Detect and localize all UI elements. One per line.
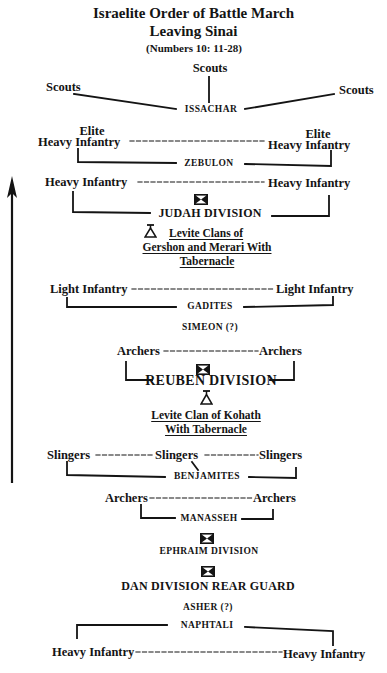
reuben-right-archers: Archers [259, 345, 302, 358]
tribe-benjamites: BENJAMITES [174, 472, 240, 482]
tribe-zebulon: ZEBULON [184, 159, 233, 169]
division-standard-icon [194, 194, 208, 205]
diagram-title: Israelite Order of Battle March [0, 6, 387, 21]
reuben-division: REUBEN DIVISION [145, 374, 277, 388]
gadites-right-infantry: Light Infantry [276, 283, 353, 296]
ephraim-division: EPHRAIM DIVISION [159, 547, 258, 557]
division-standard-icon [201, 566, 215, 577]
scripture-reference: (Numbers 10: 11-28) [146, 43, 242, 54]
tribe-naphtali: NAPHTALI [181, 621, 234, 631]
levites-gershon-line3: Tabernacle [180, 254, 235, 268]
levites-kohath-line1: Levite Clan of Kohath [151, 408, 261, 422]
tribe-asher: ASHER (?) [183, 603, 233, 613]
levites-gershon-line1: Levite Clans of [169, 226, 243, 240]
judah-left-infantry: Heavy Infantry [45, 176, 127, 189]
tabernacle-icon [144, 224, 157, 238]
levites-gershon-line2: Gershon and Merari With [143, 240, 272, 254]
judah-division: JUDAH DIVISION [158, 207, 261, 219]
naphtali-right-infantry: Heavy Infantry [283, 648, 365, 661]
scouts-left: Scouts [46, 81, 81, 94]
scouts-center: Scouts [193, 62, 228, 75]
benjamites-left-slingers: Slingers [47, 449, 90, 462]
judah-right-infantry: Heavy Infantry [268, 177, 350, 190]
zebulon-right-infantry: Heavy Infantry [268, 139, 350, 152]
division-standard-icon [200, 533, 214, 544]
manasseh-right-archers: Archers [253, 492, 296, 505]
benjamites-right-slingers: Slingers [259, 449, 302, 462]
benjamites-center-slingers: Slingers [155, 449, 198, 462]
zebulon-left-infantry: Heavy Infantry [38, 136, 120, 149]
gadites-left-infantry: Light Infantry [50, 283, 127, 296]
scouts-right: Scouts [339, 84, 374, 97]
naphtali-left-infantry: Heavy Infantry [52, 646, 134, 659]
diagram-lines [0, 0, 387, 673]
tribe-issachar: ISSACHAR [185, 105, 237, 115]
tribe-simeon: SIMEON (?) [182, 323, 238, 333]
manasseh-left-archers: Archers [105, 492, 148, 505]
tribe-manasseh: MANASSEH [180, 514, 237, 524]
dan-division: DAN DIVISION REAR GUARD [121, 580, 295, 592]
diagram-subtitle: Leaving Sinai [0, 24, 387, 39]
tabernacle-icon [200, 390, 213, 405]
reuben-left-archers: Archers [117, 345, 160, 358]
tribe-gadites: GADITES [187, 302, 233, 312]
levites-kohath-line2: With Tabernacle [165, 422, 247, 436]
